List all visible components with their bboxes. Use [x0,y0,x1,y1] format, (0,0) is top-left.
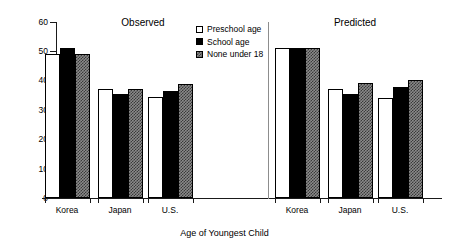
bar-predicted-korea-preschool [275,48,290,198]
bar-observed-korea-school [60,48,75,198]
bar-observed-korea-none18 [75,54,90,198]
legend-swatch-preschool-icon [196,26,203,33]
x-category-label: U.S. [370,205,430,215]
legend-label-school: School age [207,36,250,49]
bar-predicted-japan-school [343,94,358,198]
legend-label-preschool: Preschool age [207,23,261,36]
x-axis-line [42,198,442,199]
bar-observed-japan-preschool [98,89,113,198]
x-group-tick [378,198,379,203]
bar-observed-us-none18 [178,84,193,198]
bar-observed-us-preschool [148,97,163,198]
x-group-tick [373,198,374,203]
bar-predicted-us-none18 [408,80,423,198]
x-group-tick [275,198,276,203]
x-group-tick [328,198,329,203]
bar-predicted-japan-none18 [358,83,373,198]
x-group-tick [193,198,194,203]
x-group-tick [45,198,46,203]
x-group-tick [423,198,424,203]
bar-observed-japan-school [113,94,128,198]
bar-chart: 60 50 40 30 20 10 0 Percent Age of Young… [0,0,449,247]
x-group-tick [320,198,321,203]
x-group-tick [143,198,144,203]
x-axis-title: Age of Youngest Child [0,228,449,238]
bar-predicted-japan-preschool [328,89,343,198]
x-category-label: Korea [267,205,327,215]
bar-predicted-korea-school [290,48,305,198]
x-group-tick [148,198,149,203]
x-category-label: Korea [37,205,97,215]
legend-item-preschool-age: Preschool age [196,23,263,36]
bar-observed-korea-preschool [45,54,60,198]
x-group-tick [98,198,99,203]
legend: Preschool age School age None under 18 [196,23,263,61]
legend-item-school-age: School age [196,36,263,49]
bar-observed-japan-none18 [128,89,143,198]
bar-predicted-us-school [393,87,408,198]
legend-swatch-school-icon [196,38,203,45]
legend-item-none-under-18: None under 18 [196,48,263,61]
bar-predicted-korea-none18 [305,48,320,198]
bar-observed-us-school [163,91,178,198]
legend-label-none18: None under 18 [207,48,263,61]
x-group-tick [90,198,91,203]
bar-predicted-us-preschool [378,98,393,198]
x-category-label: U.S. [140,205,200,215]
legend-swatch-none18-icon [196,51,203,58]
